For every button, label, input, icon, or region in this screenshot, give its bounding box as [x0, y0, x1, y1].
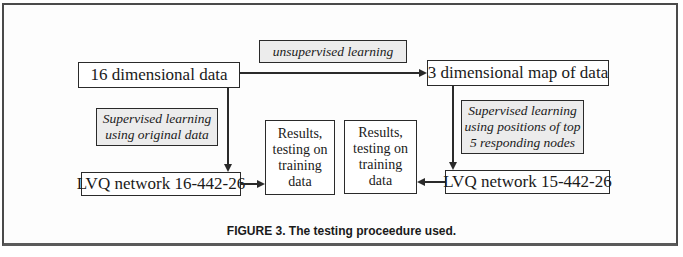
arrowhead-down-icon [224, 164, 232, 172]
node-lvq-15-442-26: LVQ network 15-442-26 [445, 170, 610, 194]
supervised-positions-line-2: using positions of top [465, 119, 581, 135]
arrowhead-right-icon [257, 180, 265, 188]
results-right-line-3: training [359, 157, 403, 173]
supervised-positions-line-1: Supervised learning [468, 103, 576, 119]
edge-lvq16-to-results1-line [241, 183, 258, 185]
supervised-positions-line-3: 5 responding nodes [470, 135, 575, 151]
edge-16d-to-lvq16-line [227, 88, 229, 165]
edge-3d-to-lvq15-line [452, 86, 454, 163]
results-right-line-1: Results, [358, 125, 403, 141]
results-left-line-3: training [278, 158, 322, 174]
node-results-left: Results, testing on training data [265, 120, 335, 195]
node-3-dimensional-map-label: 3 dimensional map of data [428, 63, 608, 83]
results-left-line-2: testing on [273, 142, 328, 158]
arrowhead-right-icon [419, 69, 427, 77]
figure-caption: FIGURE 3. The testing proceedure used. [0, 224, 683, 238]
arrowhead-left-icon [417, 178, 425, 186]
node-16-dimensional-data-label: 16 dimensional data [91, 65, 228, 85]
supervised-original-line-1: Supervised learning [103, 111, 211, 127]
node-results-right: Results, testing on training data [344, 120, 417, 194]
unsupervised-learning-label: unsupervised learning [259, 40, 407, 63]
results-right-line-2: testing on [353, 141, 408, 157]
results-left-line-1: Results, [278, 126, 323, 142]
results-left-line-4: data [288, 174, 311, 190]
supervised-original-label: Supervised learning using original data [96, 108, 218, 146]
supervised-original-line-2: using original data [105, 127, 209, 143]
arrowhead-down-icon [449, 162, 457, 170]
node-3-dimensional-map: 3 dimensional map of data [427, 60, 609, 86]
edge-lvq15-to-results2-line [425, 181, 445, 183]
node-lvq-16-442-26: LVQ network 16-442-26 [81, 172, 241, 196]
node-16-dimensional-data: 16 dimensional data [78, 62, 240, 88]
results-right-line-4: data [369, 173, 392, 189]
unsupervised-learning-text: unsupervised learning [273, 44, 393, 60]
supervised-positions-label: Supervised learning using positions of t… [461, 100, 584, 154]
edge-16d-to-3d-line [240, 72, 420, 74]
node-lvq-15-442-26-label: LVQ network 15-442-26 [443, 172, 611, 192]
node-lvq-16-442-26-label: LVQ network 16-442-26 [77, 174, 245, 194]
